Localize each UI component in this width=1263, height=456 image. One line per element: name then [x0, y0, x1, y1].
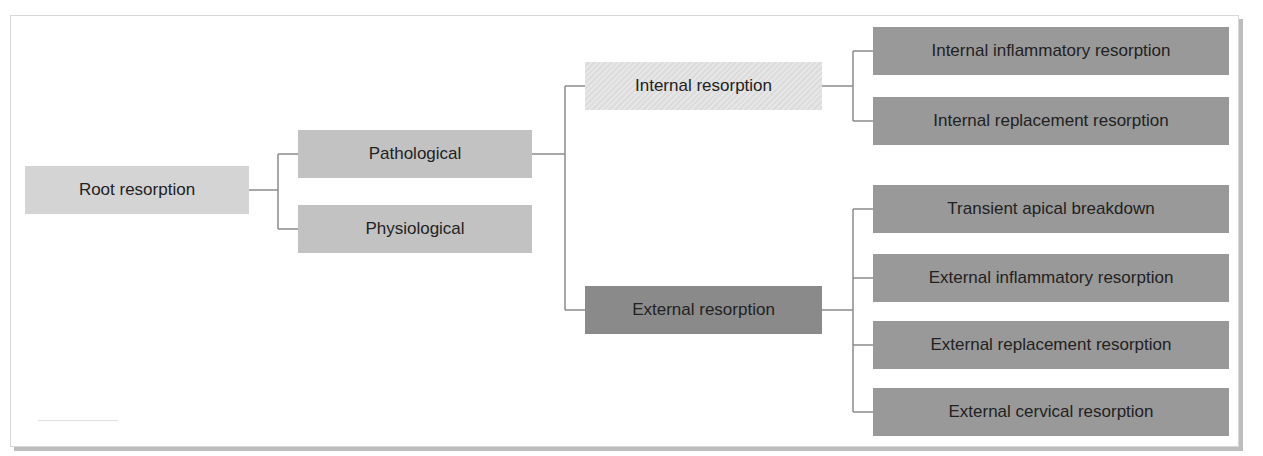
node-physiological: Physiological — [298, 205, 532, 253]
node-label: External cervical resorption — [948, 402, 1153, 422]
node-label: Internal inflammatory resorption — [931, 41, 1170, 61]
node-root-resorption: Root resorption — [25, 166, 249, 214]
node-label: Transient apical breakdown — [947, 199, 1154, 219]
node-label: External resorption — [632, 300, 775, 320]
node-internal-inflammatory-resorption: Internal inflammatory resorption — [873, 27, 1229, 75]
node-label: External replacement resorption — [931, 335, 1172, 355]
node-external-inflammatory-resorption: External inflammatory resorption — [873, 254, 1229, 302]
node-pathological: Pathological — [298, 130, 532, 178]
node-label: Internal resorption — [635, 76, 772, 96]
node-label: Physiological — [365, 219, 464, 239]
node-label: Root resorption — [79, 180, 195, 200]
node-external-replacement-resorption: External replacement resorption — [873, 321, 1229, 369]
node-internal-replacement-resorption: Internal replacement resorption — [873, 97, 1229, 145]
node-external-cervical-resorption: External cervical resorption — [873, 388, 1229, 436]
node-label: External inflammatory resorption — [929, 268, 1174, 288]
node-external-resorption: External resorption — [585, 286, 822, 334]
node-internal-resorption: Internal resorption — [585, 62, 822, 110]
node-label: Pathological — [369, 144, 462, 164]
node-transient-apical-breakdown: Transient apical breakdown — [873, 185, 1229, 233]
node-label: Internal replacement resorption — [933, 111, 1168, 131]
